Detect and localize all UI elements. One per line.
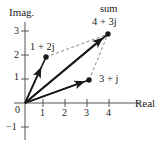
point-label-3-plus-j: 3 + j: [99, 74, 118, 85]
tick-label-imag-3: 3: [14, 26, 19, 36]
point-marker-sum: [105, 31, 110, 36]
tick-label-real-3: 3: [84, 108, 89, 118]
tick-label-imag-1: 1: [14, 72, 19, 82]
point-marker-1-plus-2j: [43, 54, 48, 59]
dashed-edge-a-to-sum: [46, 34, 108, 57]
tick-label-imag-2: 2: [14, 50, 19, 60]
tick-label-real-2: 2: [62, 108, 67, 118]
point-label-1-plus-2j: 1 + 2j: [30, 42, 55, 53]
tick-label-real-1: 1: [40, 108, 45, 118]
complex-plane-vector-addition-figure: Imag. Real 3 2 1 0 −1 1 2 3 4 1 + 2j 3 +…: [0, 0, 160, 151]
point-label-sum: 4 + 3j: [92, 17, 117, 28]
tick-label-origin: 0: [15, 105, 20, 115]
real-axis-label: Real: [135, 98, 155, 109]
tick-label-imag-minus-1: −1: [6, 122, 17, 132]
point-marker-3-plus-j: [86, 77, 91, 82]
imag-axis-label: Imag.: [9, 7, 34, 18]
plot-canvas: [0, 0, 160, 151]
tick-label-real-4: 4: [106, 108, 111, 118]
sum-word-label: sum: [100, 4, 118, 15]
